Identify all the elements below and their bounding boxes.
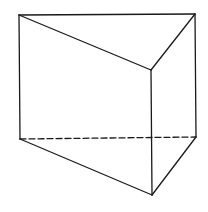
background <box>0 0 208 212</box>
triangular-prism-figure <box>0 0 208 212</box>
prism-diagram <box>0 0 208 212</box>
